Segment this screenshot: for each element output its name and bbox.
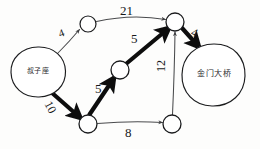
edge-weight-upper-hub: 21 bbox=[120, 4, 133, 17]
edge-lowerleft-lowerright bbox=[98, 122, 163, 124]
node-upper[interactable] bbox=[80, 16, 96, 32]
node-source-label: 叔子座 bbox=[14, 68, 62, 75]
edge-weight-lowerright-hub: 12 bbox=[155, 60, 167, 72]
edge-weight-lowerleft-lowerright: 8 bbox=[125, 126, 132, 139]
edge-weight-lowerleft-middle: 5 bbox=[95, 82, 102, 95]
diagram-canvas: 叔子座 金门大桥 4 21 10 5 5 4 8 12 bbox=[0, 0, 260, 149]
node-middle[interactable] bbox=[111, 61, 129, 79]
edge-lowerright-hub bbox=[173, 32, 176, 115]
edge-weight-middle-hub: 5 bbox=[131, 32, 138, 45]
edge-lowerleft-middle bbox=[90, 78, 115, 115]
node-hub[interactable] bbox=[166, 13, 184, 31]
node-lower-right[interactable] bbox=[163, 115, 181, 133]
node-destination-label: 金门大桥 bbox=[186, 70, 242, 78]
node-lower-left[interactable] bbox=[79, 115, 97, 133]
